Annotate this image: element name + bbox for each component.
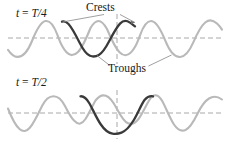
troughs-leader-right	[149, 55, 172, 66]
panel-bottom-time-equals: =	[19, 76, 31, 88]
troughs-annotation-label: Troughs	[108, 63, 146, 75]
panel-bottom	[8, 90, 222, 139]
crests-leader-lines	[63, 15, 136, 24]
crests-annotation-label: Crests	[86, 2, 115, 14]
panel-top-highlight-wave	[62, 21, 135, 57]
panel-top-time-label: t = T/4	[16, 8, 47, 20]
panel-top-time-value: T/4	[31, 7, 46, 19]
panel-top	[8, 14, 222, 64]
panel-bottom-time-value: T/2	[31, 76, 46, 88]
panel-top-faint-wave	[8, 20, 222, 57]
panel-bottom-time-label: t = T/2	[16, 77, 47, 89]
wave-figure: t = T/4 t = T/2 Crests Troughs	[0, 0, 230, 145]
panel-top-time-equals: =	[19, 7, 31, 19]
